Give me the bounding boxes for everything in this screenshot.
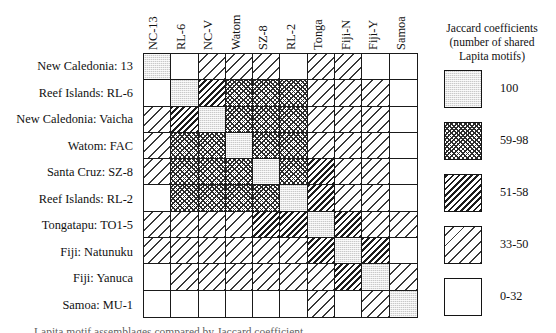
matrix-cell [362, 159, 389, 185]
matrix-cell [144, 185, 171, 211]
matrix-cell [335, 54, 362, 80]
matrix-cell [144, 238, 171, 264]
matrix-cell [390, 80, 417, 106]
column-label: Fiji-Y [366, 24, 381, 50]
column-label: NC-V [201, 24, 216, 50]
matrix-cell [335, 238, 362, 264]
matrix-cell [226, 238, 253, 264]
matrix-cell [144, 264, 171, 290]
column-label: Fiji-N [339, 24, 354, 50]
matrix-cell [390, 185, 417, 211]
column-header-group: NC-13RL-6NC-VWatomSZ-8RL-2TongaFiji-NFij… [143, 0, 418, 52]
matrix-cell [171, 185, 198, 211]
matrix-cell [280, 238, 307, 264]
matrix-cell [280, 54, 307, 80]
matrix-cell [335, 264, 362, 290]
legend-entry: 100 [428, 70, 556, 116]
matrix-cell [308, 80, 335, 106]
matrix-cell [308, 238, 335, 264]
matrix-cell [226, 291, 253, 317]
legend-label: 0-32 [500, 289, 522, 304]
legend-label: 59-98 [500, 133, 528, 148]
matrix-cell [362, 80, 389, 106]
legend-title-line: Lapita motifs) [428, 50, 556, 64]
legend-label: 100 [500, 81, 518, 96]
matrix-cell [308, 185, 335, 211]
matrix-cell [362, 107, 389, 133]
matrix-cell [199, 107, 226, 133]
legend: Jaccard coefficients(number of sharedLap… [428, 22, 556, 322]
matrix-cell [335, 107, 362, 133]
matrix-cell [253, 107, 280, 133]
matrix-cell [280, 159, 307, 185]
matrix-cell [171, 264, 198, 290]
matrix-cell [280, 107, 307, 133]
matrix-cell [144, 291, 171, 317]
matrix-cell [308, 107, 335, 133]
matrix-cell [390, 291, 417, 317]
matrix-cell [253, 80, 280, 106]
matrix-cell [280, 291, 307, 317]
matrix-cell [308, 133, 335, 159]
matrix-cell [171, 238, 198, 264]
row-label-group: New Caledonia: 13Reef Islands: RL-6New C… [0, 53, 139, 318]
matrix-cell [308, 159, 335, 185]
matrix-cell [144, 107, 171, 133]
matrix-cell [226, 133, 253, 159]
matrix-cell [335, 185, 362, 211]
matrix-cell [226, 159, 253, 185]
matrix-cell [171, 54, 198, 80]
legend-label: 33-50 [500, 237, 528, 252]
matrix-cell [390, 212, 417, 238]
matrix-cell [280, 80, 307, 106]
legend-title: Jaccard coefficients(number of sharedLap… [428, 22, 556, 65]
matrix-cell [144, 159, 171, 185]
matrix-cell [253, 212, 280, 238]
matrix-cell [144, 133, 171, 159]
legend-label: 51-58 [500, 185, 528, 200]
matrix-cell [335, 212, 362, 238]
matrix-cell [253, 54, 280, 80]
matrix-cell [226, 212, 253, 238]
legend-swatch [444, 122, 482, 160]
matrix-cell [362, 54, 389, 80]
matrix-cell [280, 185, 307, 211]
matrix-cell [335, 133, 362, 159]
matrix-cell [253, 291, 280, 317]
column-label: Tonga [311, 24, 326, 50]
matrix-cell [144, 212, 171, 238]
matrix-cell [226, 185, 253, 211]
matrix-cell [199, 185, 226, 211]
matrix-cell [199, 54, 226, 80]
column-label: NC-13 [146, 24, 161, 50]
legend-swatch [444, 226, 482, 264]
matrix-cell [171, 107, 198, 133]
matrix-cell [171, 291, 198, 317]
legend-entry: 59-98 [428, 122, 556, 168]
matrix-cell [253, 264, 280, 290]
matrix-cell [335, 80, 362, 106]
column-label: Watom [229, 24, 244, 50]
row-label: Samoa: MU-1 [62, 292, 133, 319]
column-label: RL-6 [174, 24, 189, 50]
matrix-cell [308, 54, 335, 80]
row-label: New Caledonia: Vaicha [16, 106, 133, 133]
row-label: Reef Islands: RL-2 [39, 186, 133, 213]
matrix-cell [362, 133, 389, 159]
legend-entry: 51-58 [428, 174, 556, 220]
matrix-cell [390, 264, 417, 290]
row-label: Fiji: Yanuca [73, 265, 133, 292]
matrix-cell [362, 264, 389, 290]
matrix-cell [199, 238, 226, 264]
row-label: Fiji: Natunuku [60, 239, 133, 266]
matrix-cell [335, 291, 362, 317]
matrix-cell [253, 238, 280, 264]
matrix-cell [390, 159, 417, 185]
column-label: Samoa [394, 24, 409, 50]
matrix-cell [253, 133, 280, 159]
row-label: Santa Cruz: SZ-8 [47, 159, 133, 186]
legend-swatch [444, 70, 482, 108]
matrix-cell [253, 185, 280, 211]
matrix-cell [308, 212, 335, 238]
matrix-cell [362, 291, 389, 317]
